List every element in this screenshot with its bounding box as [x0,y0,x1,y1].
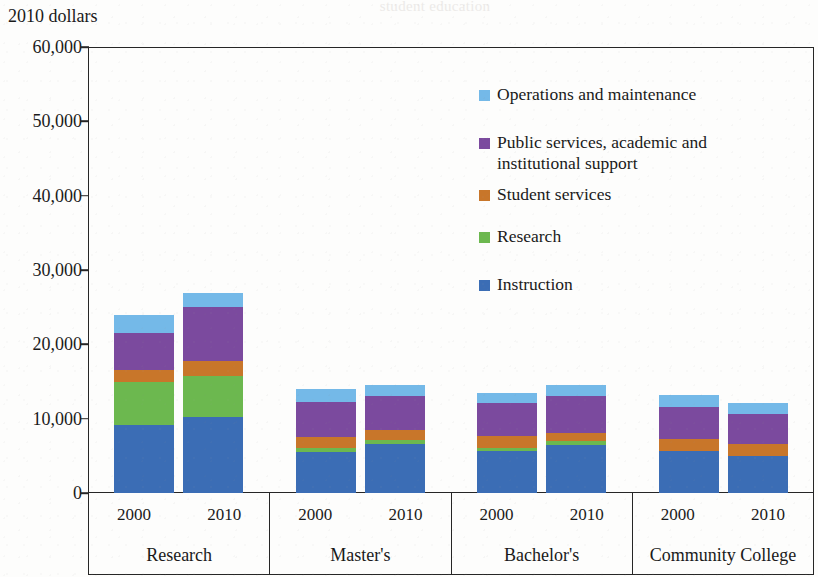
bar-segment [183,376,243,418]
legend-label: Public services, academic and institutio… [497,132,707,174]
y-axis-tick-label: 20,000 [33,334,83,355]
bar-segment [183,307,243,361]
y-axis-tick-label: 30,000 [33,260,83,281]
x-axis-group: 20002010Research [89,493,270,574]
bar-segment [296,389,356,402]
bar-segment [114,315,174,334]
bar-segment [546,396,606,433]
stacked-bar [183,293,243,493]
bar-segment [477,393,537,403]
x-axis-group: 20002010Community College [633,493,813,574]
bar-segment [365,444,425,493]
bar-segment [296,452,356,493]
legend-entry: Public services, academic and institutio… [479,132,707,174]
bar-segment [296,437,356,449]
x-axis-year-label: 2010 [388,505,422,525]
x-axis-year-label: 2010 [207,505,241,525]
x-axis-year-row: 20002010 [452,493,632,537]
bar-segment [296,402,356,437]
bar-segment [183,361,243,375]
chart-title-faint: student education [285,0,585,15]
x-axis-year-label: 2010 [570,505,604,525]
x-axis-group: 20002010Bachelor's [452,493,633,574]
stacked-bar [546,385,606,493]
x-axis-year-label: 2010 [751,505,785,525]
x-axis-group-label: Research [89,537,269,574]
y-axis-tick-labels: 60,00050,00040,00030,00020,00010,0000 [0,0,82,577]
legend-color-swatch-icon [479,90,490,101]
legend-color-swatch-icon [479,232,490,243]
legend-color-swatch-icon [479,280,490,291]
stacked-bar [114,315,174,493]
bar-segment [114,425,174,493]
bar-segment [114,382,174,424]
bar-segment [183,293,243,307]
x-axis-year-row: 20002010 [270,493,450,537]
x-axis-year-label: 2000 [480,505,514,525]
bar-segment [659,407,719,439]
bar-segment [365,385,425,396]
legend-entry: Student services [479,184,611,205]
x-axis-year-label: 2000 [298,505,332,525]
bar-segment [659,451,719,493]
bar-segment [728,403,788,414]
bar-segment [114,333,174,370]
bar-segment [365,430,425,440]
x-axis-group-label: Master's [270,537,450,574]
bar-segment [546,385,606,396]
bars-layer [88,47,814,493]
chart-root: student education 2010 dollars 60,00050,… [0,0,818,577]
x-axis-year-row: 20002010 [633,493,813,537]
x-axis-group-label: Community College [633,537,813,574]
stacked-bar [659,395,719,493]
bar-segment [546,445,606,493]
bar-segment [728,456,788,493]
bar-segment [728,444,788,456]
legend-entry: Instruction [479,274,573,295]
bar-segment [477,403,537,436]
legend-label: Operations and maintenance [497,84,696,105]
legend-color-swatch-icon [479,190,490,201]
bar-segment [183,417,243,493]
bar-segment [477,436,537,448]
x-axis-group-table: 20002010Research20002010Master's20002010… [88,493,814,575]
x-axis-year-label: 2000 [661,505,695,525]
legend-color-swatch-icon [479,138,490,149]
x-axis-group-label: Bachelor's [452,537,632,574]
x-axis-group: 20002010Master's [270,493,451,574]
y-axis-tick-label: 10,000 [33,408,83,429]
stacked-bar [365,385,425,493]
y-axis-tick-label: 40,000 [33,185,83,206]
x-axis-year-label: 2000 [117,505,151,525]
stacked-bar [728,403,788,493]
stacked-bar [296,389,356,493]
bar-segment [728,414,788,444]
bar-segment [659,439,719,452]
legend-entry: Operations and maintenance [479,84,696,105]
bar-segment [114,370,174,382]
x-axis-year-row: 20002010 [89,493,269,537]
legend-label: Student services [497,184,611,205]
legend-label: Research [497,226,561,247]
legend-entry: Research [479,226,561,247]
legend-label: Instruction [497,274,573,295]
bar-segment [546,433,606,441]
bar-segment [659,395,719,407]
bar-segment [477,451,537,493]
bar-segment [365,396,425,430]
y-axis-tick-label: 60,000 [33,37,83,58]
stacked-bar [477,393,537,493]
y-axis-tick-label: 50,000 [33,111,83,132]
